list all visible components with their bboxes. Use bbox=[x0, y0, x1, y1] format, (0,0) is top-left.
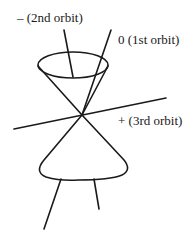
first-orbit-label: 0 (1st orbit) bbox=[118, 32, 179, 47]
upper-cone-right-edge bbox=[82, 66, 108, 115]
diagram-svg: – (2nd orbit) 0 (1st orbit) + (3rd orbit… bbox=[0, 0, 193, 237]
third-orbit-label: + (3rd orbit) bbox=[118, 113, 182, 128]
orbit-cone-diagram: – (2nd orbit) 0 (1st orbit) + (3rd orbit… bbox=[0, 0, 193, 237]
lower-cone bbox=[39, 115, 127, 180]
first-orbit-axis bbox=[82, 30, 111, 115]
upper-cone-left-edge bbox=[38, 66, 82, 115]
second-orbit-label: – (2nd orbit) bbox=[16, 10, 83, 25]
lower-right-leg bbox=[94, 179, 99, 209]
lower-left-leg bbox=[44, 179, 61, 229]
second-orbit-axis bbox=[64, 30, 73, 77]
